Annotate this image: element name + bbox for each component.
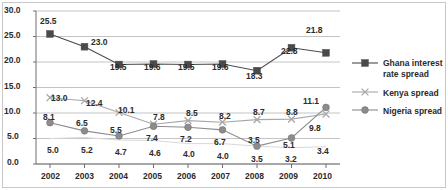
- data-label-fourth-2004: 4.7: [115, 148, 127, 157]
- data-label-kenya-2009: 8.8: [286, 108, 298, 117]
- data-label-fourth-2008: 3.5: [251, 155, 263, 164]
- legend-label-ghana-line2: rate spread: [383, 69, 429, 79]
- data-label-ghana-2002: 25.5: [40, 17, 57, 26]
- data-label-kenya-2005: 7.8: [153, 113, 165, 122]
- y-tick-6: 0.0: [7, 158, 19, 167]
- legend-label-ghana-line1: Ghana interest: [383, 58, 443, 68]
- interest-rate-spread-chart: 30.0 25.0 20.0 15.0 10.0 5.0 0.0 2002 20…: [0, 0, 448, 190]
- x-axis-ticks: [50, 164, 326, 168]
- data-label-fourth-2003: 5.2: [81, 146, 93, 155]
- data-label-nigeria-2007: 6.7: [214, 138, 226, 147]
- y-tick-2: 20.0: [4, 56, 21, 65]
- x-tick-2006: 2006: [177, 172, 196, 181]
- x-tick-2002: 2002: [41, 172, 60, 181]
- x-tick-2005: 2005: [143, 172, 162, 181]
- data-label-kenya-2002: 13.0: [51, 94, 68, 103]
- data-label-ghana-2003: 23.0: [91, 38, 108, 47]
- data-label-kenya-2010: 9.8: [309, 124, 321, 133]
- data-label-nigeria-2003: 6.5: [76, 119, 88, 128]
- x-tick-2010: 2010: [313, 172, 332, 181]
- y-tick-0: 30.0: [4, 6, 21, 15]
- data-label-fourth-2009: 3.2: [285, 155, 297, 164]
- legend-label-kenya: Kenya spread: [383, 88, 439, 98]
- data-label-fourth-2005: 4.6: [149, 149, 161, 158]
- y-tick-5: 5.0: [7, 132, 19, 141]
- data-label-nigeria-2008: 3.5: [248, 136, 260, 145]
- data-label-ghana-2006: 19.5: [178, 63, 195, 72]
- data-label-fourth-2007: 4.0: [217, 152, 229, 161]
- data-label-kenya-2004: 10.1: [118, 106, 135, 115]
- data-label-kenya-2003: 12.4: [86, 99, 103, 108]
- data-label-kenya-2006: 8.5: [186, 109, 198, 118]
- data-label-ghana-2007: 19.6: [212, 63, 229, 72]
- x-tick-2003: 2003: [75, 172, 94, 181]
- data-label-fourth-2002: 5.0: [47, 146, 59, 155]
- data-label-kenya-2007: 8.2: [219, 112, 231, 121]
- x-tick-2004: 2004: [109, 172, 128, 181]
- x-tick-2007: 2007: [211, 172, 230, 181]
- data-label-nigeria-2005: 7.4: [146, 134, 158, 143]
- legend-markers: [352, 60, 378, 114]
- data-label-nigeria-2009: 5.1: [283, 141, 295, 150]
- data-label-fourth-2010: 3.4: [317, 147, 329, 156]
- data-label-kenya-2008: 8.7: [253, 108, 265, 117]
- data-label-ghana-2005: 19.6: [144, 63, 161, 72]
- data-label-ghana-2004: 19.5: [110, 63, 127, 72]
- data-label-fourth-2006: 4.0: [183, 150, 195, 159]
- y-tick-1: 25.0: [4, 31, 21, 40]
- x-tick-2009: 2009: [279, 172, 298, 181]
- data-label-nigeria-2002: 8.1: [43, 113, 55, 122]
- x-tick-2008: 2008: [245, 172, 264, 181]
- data-label-ghana-2008: 18.3: [246, 72, 263, 81]
- data-label-nigeria-2010: 11.1: [303, 97, 319, 106]
- data-label-ghana-2009: 22.8: [281, 47, 298, 56]
- data-label-nigeria-2006: 7.2: [180, 135, 192, 144]
- legend-label-nigeria: Nigeria spread: [383, 106, 442, 116]
- data-label-ghana-2010: 21.8: [306, 26, 323, 35]
- y-tick-3: 15.0: [4, 82, 21, 91]
- y-tick-4: 10.0: [4, 107, 21, 116]
- data-label-nigeria-2004: 5.5: [110, 126, 122, 135]
